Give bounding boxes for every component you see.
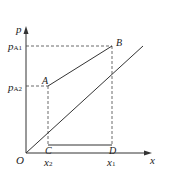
- origin-label: O: [16, 155, 24, 166]
- point-A-label: A: [42, 76, 48, 86]
- y-axis-label: p: [16, 24, 22, 35]
- x-tick-x1: x1: [107, 157, 115, 168]
- x-tick-x1-sub: 1: [112, 160, 116, 168]
- line-AB: [48, 46, 112, 86]
- y-axis-arrow-icon: [24, 26, 29, 34]
- point-D-label: D: [109, 146, 116, 156]
- diagonal-line: [26, 46, 143, 153]
- y-tick-pA2: pA2: [8, 82, 22, 93]
- y-tick-pA2-sub: A2: [14, 85, 23, 93]
- diagram-canvas: p x O pA1 pA2 x2 x1 A B C D: [0, 0, 172, 182]
- point-C-label: C: [45, 146, 52, 156]
- x-axis-label: x: [150, 155, 155, 166]
- x-tick-x2: x2: [44, 157, 52, 168]
- point-B-label: B: [116, 38, 122, 48]
- y-tick-pA1: pA1: [8, 41, 22, 52]
- y-tick-pA1-sub: A1: [14, 44, 23, 52]
- diagram-graphics: [0, 0, 172, 182]
- x-tick-x2-sub: 2: [49, 160, 53, 168]
